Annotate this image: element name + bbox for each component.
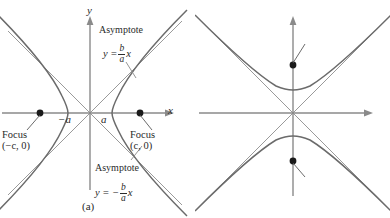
panel-a-focus-right-coords: (c, 0) [130, 140, 155, 151]
panel-a-asymptote-bottom-eq-lhs: y = − [95, 187, 119, 198]
panel-a-asymptote-bottom-equation: y = −bax [95, 183, 133, 203]
panel-a-asymptote-top-denominator: a [118, 54, 125, 65]
asymptote-line-negative-slope [8, 31, 182, 205]
focus-right-leader-line [140, 115, 152, 130]
panel-b-vertical-hyperbola: x y a −a Focus (0, c) Focus (0, −c) Asym… [195, 0, 390, 218]
panel-a-vertex-left-label: −a [58, 114, 71, 126]
panel-a-focus-left-coords: (−c, 0) [2, 140, 30, 151]
panel-a-asymptote-top-numerator: b [118, 44, 125, 54]
panel-a-x-axis-label: x [168, 105, 173, 117]
y-axis-arrowhead [87, 16, 94, 25]
panel-a-asymptote-top-eq-lhs: y = [103, 48, 117, 59]
x-axis-arrowhead [364, 110, 373, 117]
panel-a-focus-left-title: Focus [2, 129, 30, 140]
panel-a-asymptote-top-var: x [126, 48, 131, 59]
panel-a-asymptote-bottom-title: Asymptote [95, 163, 139, 174]
panel-a-asymptote-top-title: Asymptote [99, 25, 143, 36]
focus-left-leader-line [27, 115, 40, 130]
focus-bottom-leader-line [293, 163, 305, 177]
panel-a-focus-right-label: Focus (c, 0) [130, 129, 155, 151]
asymptote-line-negative-slope [205, 25, 384, 204]
panel-a-y-axis-label: y [87, 5, 92, 17]
y-axis-arrowhead [290, 16, 297, 25]
panel-a-asymptote-bottom-denominator: a [120, 193, 127, 204]
panel-a-focus-left-label: Focus (−c, 0) [2, 129, 30, 151]
panel-a-asymptote-bottom-numerator: b [120, 183, 127, 193]
panel-a-vertex-right-label: a [101, 114, 107, 126]
panel-b-graphic [195, 0, 390, 218]
panel-a-horizontal-hyperbola: x y −a a Focus (−c, 0) Focus (c, 0) Asym… [0, 0, 195, 218]
panel-a-focus-right-title: Focus [130, 129, 155, 140]
hyperbola-figure: x y −a a Focus (−c, 0) Focus (c, 0) Asym… [0, 0, 390, 218]
panel-a-asymptote-bottom-var: x [128, 187, 133, 198]
focus-top-leader-line [293, 44, 305, 63]
panel-a-caption: (a) [82, 201, 94, 213]
panel-a-asymptote-bottom-fraction: ba [120, 183, 127, 203]
asymptote-line-positive-slope [205, 22, 384, 201]
panel-a-asymptote-top-fraction: ba [118, 44, 125, 64]
panel-a-asymptote-top-equation: y =bax [103, 44, 131, 64]
